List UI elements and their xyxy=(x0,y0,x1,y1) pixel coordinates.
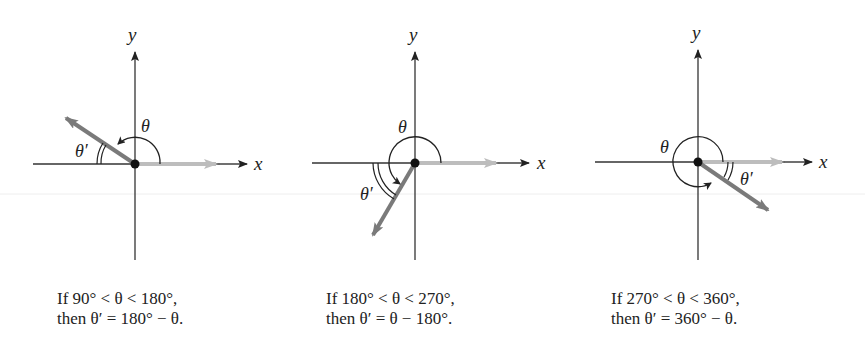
origin-point xyxy=(411,159,420,168)
theta-label: θ xyxy=(398,117,407,137)
reference-angle-figure: y x θ θ′ y x θ θ′ y x θ θ′ xyxy=(0,0,865,337)
theta-prime-arc-outer xyxy=(728,162,733,180)
theta-prime-label: θ′ xyxy=(360,184,374,204)
theta-label: θ xyxy=(660,137,669,157)
panel-quadrant-iv: y x θ θ′ xyxy=(595,22,828,260)
theta-label: θ xyxy=(141,116,150,136)
theta-prime-arc-inner xyxy=(724,162,728,177)
y-axis-label: y xyxy=(690,22,701,43)
theta-prime-arc-inner xyxy=(378,163,396,195)
x-axis-label: x xyxy=(536,152,546,173)
caption-condition: If 180° < θ < 270°, xyxy=(326,289,455,309)
origin-point xyxy=(694,158,703,167)
origin-point xyxy=(131,160,140,169)
panel-quadrant-iii: y x θ θ′ xyxy=(312,24,546,260)
x-axis-label: x xyxy=(253,153,263,174)
y-axis-label: y xyxy=(126,24,137,45)
caption-condition: If 90° < θ < 180°, xyxy=(57,289,183,309)
caption-formula: then θ′ = θ − 180°. xyxy=(326,309,455,329)
y-axis-label: y xyxy=(407,24,418,45)
theta-prime-label: θ′ xyxy=(740,169,754,189)
theta-arc xyxy=(118,137,160,164)
x-axis-label: x xyxy=(818,151,828,172)
caption-formula: then θ′ = 180° − θ. xyxy=(57,309,183,329)
panel-quadrant-ii: y x θ θ′ xyxy=(33,24,263,260)
caption-quadrant-iii: If 180° < θ < 270°, then θ′ = θ − 180°. xyxy=(326,289,455,329)
theta-prime-label: θ′ xyxy=(75,141,89,161)
caption-quadrant-ii: If 90° < θ < 180°, then θ′ = 180° − θ. xyxy=(57,289,183,329)
terminal-side xyxy=(698,162,768,210)
caption-formula: then θ′ = 360° − θ. xyxy=(611,309,740,329)
caption-quadrant-iv: If 270° < θ < 360°, then θ′ = 360° − θ. xyxy=(611,289,740,329)
theta-prime-arc-inner xyxy=(101,145,106,164)
caption-condition: If 270° < θ < 360°, xyxy=(611,289,740,309)
